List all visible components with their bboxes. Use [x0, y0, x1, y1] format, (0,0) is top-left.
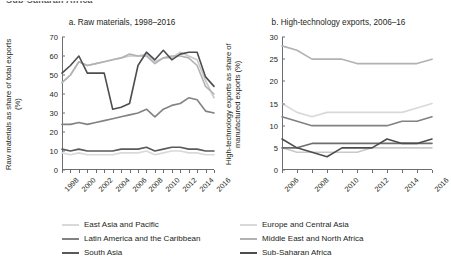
x-tick-mark — [189, 170, 190, 173]
legend-item-label: Middle East and North Africa — [262, 234, 363, 243]
legend-item-label: South Asia — [84, 248, 122, 257]
x-tick-mark — [155, 170, 156, 173]
legend-item-label: Latin America and the Caribbean — [84, 234, 201, 243]
x-tick-mark — [372, 170, 373, 173]
y-tick-label: 15 — [270, 99, 282, 108]
x-tick-mark — [130, 170, 131, 173]
y-tick-label: 70 — [50, 33, 62, 42]
x-tick-label: 2002 — [96, 176, 114, 194]
panel-a-y-axis-label: Raw materials as share of total exports … — [4, 34, 26, 174]
x-tick-label: 2012 — [181, 176, 199, 194]
series-line — [62, 98, 214, 125]
x-tick-label: 2012 — [373, 176, 391, 194]
y-tick-label: 5 — [274, 143, 282, 152]
y-tick-label: 30 — [270, 33, 282, 42]
legend-item[interactable]: Sub-Saharan Africa — [240, 248, 412, 257]
y-tick-label: 40 — [50, 90, 62, 99]
x-tick-mark — [172, 170, 173, 173]
legend-color-swatch — [240, 238, 257, 240]
panel-b-title: b. High-technology exports, 2006–16 — [222, 18, 439, 27]
series-line — [62, 151, 214, 155]
panel-b-series-lines — [282, 37, 432, 170]
x-tick-label: 2006 — [283, 176, 301, 194]
y-tick-label: 10 — [270, 121, 282, 130]
y-tick-label: 0 — [274, 166, 282, 175]
x-tick-mark — [163, 170, 164, 173]
legend-item[interactable]: South Asia — [62, 248, 234, 257]
panel-a-series-lines — [62, 37, 214, 170]
legend-color-swatch — [240, 224, 257, 226]
chart-legend: East Asia and PacificEurope and Central … — [0, 218, 439, 270]
series-line — [62, 52, 214, 98]
legend-color-swatch — [62, 252, 79, 254]
series-line — [62, 54, 214, 94]
x-tick-label: 2008 — [313, 176, 331, 194]
x-tick-label: 2010 — [164, 176, 182, 194]
x-tick-label: 2008 — [147, 176, 165, 194]
legend-color-swatch — [62, 224, 79, 226]
panel-a-plot-area: 0102030405060701998200020022004200620082… — [62, 37, 214, 170]
x-tick-mark — [432, 170, 433, 173]
y-tick-label: 10 — [50, 147, 62, 156]
x-tick-mark — [282, 170, 283, 173]
legend-color-swatch — [62, 238, 79, 240]
y-tick-label: 0 — [54, 166, 62, 175]
x-tick-mark — [96, 170, 97, 173]
x-tick-label: 1998 — [63, 176, 81, 194]
x-tick-mark — [417, 170, 418, 173]
y-tick-label: 50 — [50, 71, 62, 80]
x-tick-mark — [197, 170, 198, 173]
x-tick-mark — [146, 170, 147, 173]
y-tick-label: 60 — [50, 52, 62, 61]
series-line — [282, 46, 432, 64]
x-tick-mark — [342, 170, 343, 173]
y-tick-label: 20 — [270, 77, 282, 86]
x-tick-label: 2006 — [130, 176, 148, 194]
x-tick-mark — [87, 170, 88, 173]
x-tick-mark — [180, 170, 181, 173]
x-tick-mark — [104, 170, 105, 173]
y-tick-label: 25 — [270, 55, 282, 64]
x-tick-mark — [138, 170, 139, 173]
legend-item-label: East Asia and Pacific — [84, 220, 159, 229]
legend-item[interactable]: Middle East and North Africa — [240, 234, 412, 243]
x-tick-mark — [312, 170, 313, 173]
x-tick-mark — [113, 170, 114, 173]
x-tick-mark — [121, 170, 122, 173]
x-tick-label: 2016 — [433, 176, 451, 194]
panel-b-plot-area: 051015202530200620082010201220142016 — [282, 37, 432, 170]
legend-item[interactable]: Europe and Central Asia — [240, 220, 412, 229]
x-tick-label: 2000 — [79, 176, 97, 194]
series-line — [282, 104, 432, 117]
legend-item-label: Sub-Saharan Africa — [262, 248, 331, 257]
panel-b-high-tech-exports: b. High-technology exports, 2006–16 High… — [222, 0, 439, 215]
x-tick-mark — [357, 170, 358, 173]
x-tick-label: 2010 — [343, 176, 361, 194]
x-tick-mark — [387, 170, 388, 173]
x-tick-mark — [79, 170, 80, 173]
x-tick-label: 2004 — [113, 176, 131, 194]
x-tick-mark — [62, 170, 63, 173]
x-tick-mark — [206, 170, 207, 173]
x-tick-mark — [297, 170, 298, 173]
legend-item[interactable]: Latin America and the Caribbean — [62, 234, 234, 243]
x-tick-mark — [327, 170, 328, 173]
x-tick-mark — [402, 170, 403, 173]
series-line — [282, 117, 432, 126]
panel-a-raw-materials: a. Raw materials, 1998–2016 Raw material… — [0, 0, 222, 215]
panel-a-title: a. Raw materials, 1998–2016 — [0, 18, 222, 27]
legend-color-swatch — [240, 252, 257, 254]
x-tick-mark — [70, 170, 71, 173]
series-line — [62, 147, 214, 151]
x-tick-label: 2014 — [198, 176, 216, 194]
x-tick-mark — [214, 170, 215, 173]
x-tick-label: 2014 — [403, 176, 421, 194]
legend-item[interactable]: East Asia and Pacific — [62, 220, 234, 229]
y-tick-label: 20 — [50, 128, 62, 137]
panel-b-y-axis-label: High-technology exports as share of manu… — [224, 28, 246, 180]
y-tick-label: 30 — [50, 109, 62, 118]
legend-item-label: Europe and Central Asia — [262, 220, 349, 229]
